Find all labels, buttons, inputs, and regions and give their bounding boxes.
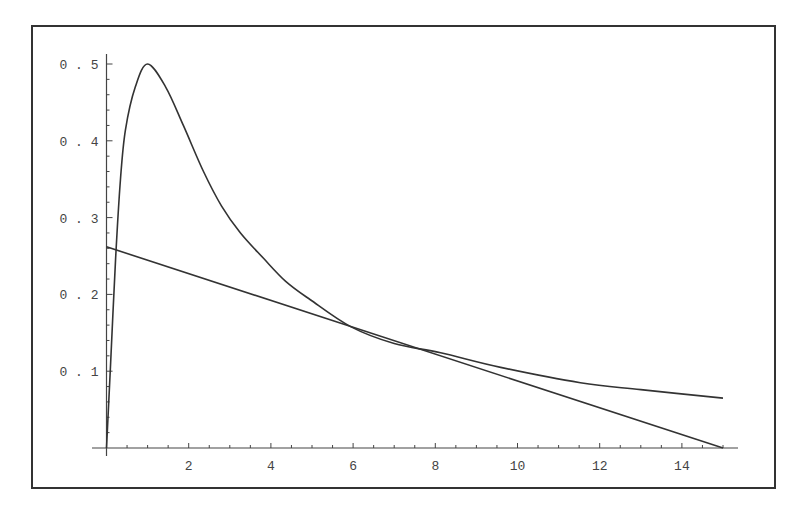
x-tick-label: 4 bbox=[267, 459, 275, 474]
x-tick-label: 2 bbox=[185, 459, 193, 474]
series-curve bbox=[107, 64, 724, 448]
y-tick-label: 0 . 2 bbox=[59, 288, 98, 303]
x-tick-label: 6 bbox=[349, 459, 357, 474]
plot-area: 24681012140 . 10 . 20 . 30 . 40 . 5 bbox=[0, 0, 804, 514]
y-tick-label: 0 . 3 bbox=[59, 212, 98, 227]
x-tick-label: 10 bbox=[510, 459, 526, 474]
series-tangent-line bbox=[107, 247, 724, 448]
x-tick-label: 12 bbox=[592, 459, 608, 474]
y-tick-label: 0 . 4 bbox=[59, 135, 98, 150]
x-tick-label: 8 bbox=[431, 459, 439, 474]
y-tick-label: 0 . 5 bbox=[59, 58, 98, 73]
y-tick-label: 0 . 1 bbox=[59, 365, 98, 380]
x-tick-label: 14 bbox=[674, 459, 690, 474]
data-series bbox=[107, 64, 724, 448]
